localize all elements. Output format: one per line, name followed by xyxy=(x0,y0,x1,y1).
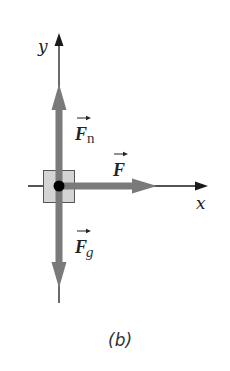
applied-force-symbol: F xyxy=(112,160,125,180)
y-axis-arrowhead xyxy=(55,33,64,46)
gravitational-force-subscript: g xyxy=(86,244,94,260)
x-axis-arrowhead xyxy=(195,182,208,191)
y-axis-label: y xyxy=(37,36,48,56)
free-body-diagram: y x F n F F g (b) xyxy=(0,0,230,371)
gravitational-force-label: F g xyxy=(74,229,94,260)
gravitational-force-arrowhead xyxy=(52,262,67,288)
vector-arrowhead-icon xyxy=(86,229,91,233)
normal-force-subscript: n xyxy=(87,130,95,146)
x-axis-label: x xyxy=(196,193,206,213)
normal-force-shaft xyxy=(56,104,63,186)
vector-arrowhead-icon xyxy=(86,116,91,120)
applied-force-shaft xyxy=(59,183,135,190)
figure-caption: (b) xyxy=(108,330,132,350)
vector-arrowhead-icon xyxy=(123,152,128,156)
applied-force-arrowhead xyxy=(132,179,157,194)
applied-force-label: F xyxy=(112,152,128,180)
gravitational-force-shaft xyxy=(56,186,63,266)
normal-force-arrowhead xyxy=(52,84,67,110)
center-point xyxy=(54,181,65,192)
normal-force-label: F n xyxy=(74,116,95,146)
normal-force-symbol: F xyxy=(74,124,87,144)
